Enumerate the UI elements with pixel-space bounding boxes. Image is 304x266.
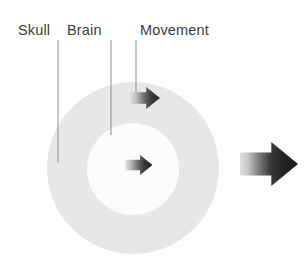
diagram-canvas: Skull Brain Movement bbox=[0, 0, 304, 266]
label-brain: Brain bbox=[67, 22, 102, 38]
label-skull: Skull bbox=[18, 22, 50, 38]
direction-arrow-large-icon bbox=[240, 142, 298, 186]
labels-group: Skull Brain Movement bbox=[18, 22, 209, 38]
diagram-container: Skull Brain Movement bbox=[0, 0, 304, 266]
label-movement: Movement bbox=[140, 22, 209, 38]
